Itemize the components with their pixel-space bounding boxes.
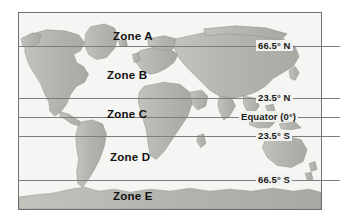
japan-shape	[289, 66, 299, 80]
arabia-shape	[190, 90, 208, 110]
south-america-shape	[76, 120, 107, 187]
zone-label-e: Zone E	[113, 190, 153, 203]
new-zealand-south-shape	[305, 172, 313, 180]
madagascar-shape	[197, 134, 206, 148]
zone-label-a: Zone A	[113, 30, 153, 43]
central-america-shape	[60, 112, 81, 126]
latitude-label-tropic-of-capricorn: 23.5° S	[256, 130, 292, 141]
antarctica-shape	[19, 187, 321, 209]
latitude-label-antarctic-circle: 66.5° S	[256, 174, 292, 185]
latitude-label-arctic-circle: 66.5° N	[256, 40, 293, 51]
new-guinea-shape	[279, 122, 301, 130]
zone-label-b: Zone B	[107, 69, 147, 82]
climate-zone-map-figure: 66.5° N 23.5° N Equator (0°) 23.5° S 66.…	[0, 0, 345, 223]
zone-label-c: Zone C	[107, 108, 147, 121]
zone-label-d: Zone D	[110, 151, 150, 164]
india-shape	[218, 96, 236, 120]
latitude-label-equator: Equator (0°)	[239, 111, 298, 122]
latitude-label-tropic-of-cancer: 23.5° N	[256, 92, 293, 103]
new-zealand-shape	[309, 161, 317, 171]
